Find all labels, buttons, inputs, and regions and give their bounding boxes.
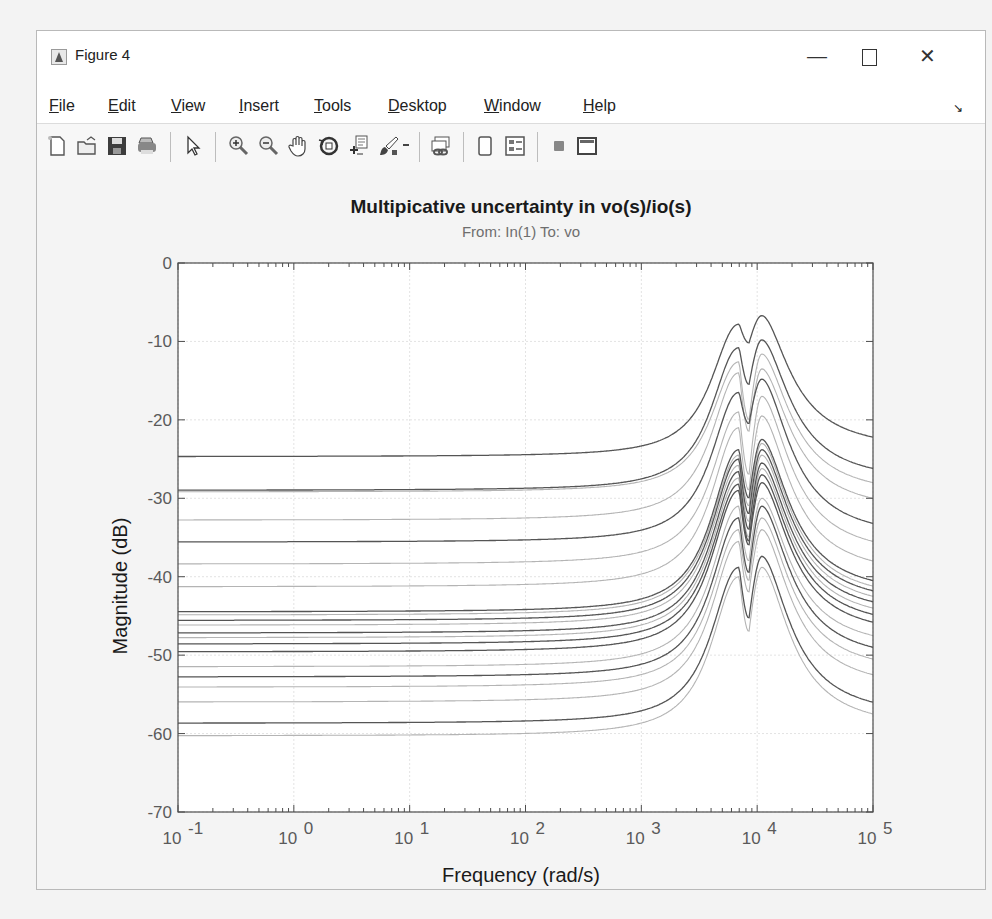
plot-subtitle: From: In(1) To: vo bbox=[462, 223, 580, 240]
minimize-button[interactable]: — bbox=[797, 41, 837, 71]
menu-label: ile bbox=[59, 97, 75, 114]
insert-colorbar-icon[interactable] bbox=[547, 134, 571, 158]
save-icon[interactable] bbox=[105, 134, 129, 158]
menu-window[interactable]: Window bbox=[484, 97, 541, 115]
x-tick-label: 10 bbox=[858, 829, 877, 848]
menu-label: dit bbox=[119, 97, 136, 114]
x-axis-label: Frequency (rad/s) bbox=[442, 864, 600, 886]
y-axis-label: Magnitude (dB) bbox=[109, 518, 131, 655]
brush-dropdown-icon[interactable] bbox=[401, 134, 411, 158]
toolbar-separator bbox=[170, 132, 171, 162]
maximize-icon bbox=[862, 49, 877, 66]
show-plot-tools-icon[interactable] bbox=[503, 134, 527, 158]
window-title: Figure 4 bbox=[75, 46, 130, 63]
rotate-3d-icon[interactable] bbox=[317, 134, 341, 158]
figure-toolbar bbox=[37, 123, 985, 171]
menu-insert[interactable]: Insert bbox=[239, 97, 279, 115]
menu-view[interactable]: View bbox=[171, 97, 205, 115]
y-tick-label: -60 bbox=[147, 725, 172, 744]
y-tick-label: -20 bbox=[147, 411, 172, 430]
toolbar-separator bbox=[419, 132, 420, 162]
dock-figure-icon[interactable]: ↘ bbox=[953, 101, 963, 115]
menu-tools[interactable]: Tools bbox=[314, 97, 351, 115]
figure-window: Figure 4 — ✕ File Edit View Insert Tools… bbox=[36, 30, 986, 890]
edit-plot-arrow-icon[interactable] bbox=[181, 134, 205, 158]
menu-help[interactable]: Help bbox=[583, 97, 616, 115]
print-icon[interactable] bbox=[135, 134, 159, 158]
menu-desktop[interactable]: Desktop bbox=[388, 97, 447, 115]
x-tick-exponent: 1 bbox=[420, 819, 429, 838]
y-tick-label: -50 bbox=[147, 646, 172, 665]
menu-label: ools bbox=[322, 97, 351, 114]
maximize-button[interactable] bbox=[849, 41, 889, 71]
menu-label: indow bbox=[499, 97, 541, 114]
toolbar-separator bbox=[537, 132, 538, 162]
x-tick-label: 10 bbox=[394, 829, 413, 848]
y-tick-label: -10 bbox=[147, 332, 172, 351]
menu-accel: V bbox=[171, 97, 181, 114]
menu-label: nsert bbox=[243, 97, 279, 114]
insert-legend-icon[interactable] bbox=[575, 134, 599, 158]
zoom-out-icon[interactable] bbox=[257, 134, 281, 158]
open-file-icon[interactable] bbox=[75, 134, 99, 158]
menu-accel: D bbox=[388, 97, 400, 114]
data-cursor-icon[interactable] bbox=[347, 134, 371, 158]
plot-title: Multipicative uncertainty in vo(s)/io(s) bbox=[351, 196, 692, 217]
hide-plot-tools-icon[interactable] bbox=[473, 134, 497, 158]
y-tick-label: -70 bbox=[147, 803, 172, 822]
plot-area: 10-11001011021031041050-10-20-30-40-50-6… bbox=[147, 254, 892, 848]
toolbar-separator bbox=[463, 132, 464, 162]
menu-label: elp bbox=[595, 97, 616, 114]
x-tick-label: 10 bbox=[510, 829, 529, 848]
x-tick-exponent: 4 bbox=[767, 819, 776, 838]
x-tick-exponent: 5 bbox=[883, 819, 892, 838]
menu-accel: E bbox=[108, 97, 119, 114]
zoom-in-icon[interactable] bbox=[227, 134, 251, 158]
x-tick-exponent: 0 bbox=[304, 819, 313, 838]
close-button[interactable]: ✕ bbox=[907, 41, 947, 71]
menu-accel: H bbox=[583, 97, 595, 114]
matlab-figure-icon bbox=[51, 49, 67, 65]
menu-accel: T bbox=[314, 97, 322, 114]
link-plot-icon[interactable] bbox=[429, 134, 453, 158]
x-tick-exponent: 3 bbox=[651, 819, 660, 838]
menu-accel: F bbox=[49, 97, 59, 114]
new-figure-icon[interactable] bbox=[45, 134, 69, 158]
menu-bar: File Edit View Insert Tools Desktop Wind… bbox=[37, 89, 985, 123]
y-tick-label: -40 bbox=[147, 568, 172, 587]
menu-label: esktop bbox=[400, 97, 447, 114]
pan-hand-icon[interactable] bbox=[287, 134, 311, 158]
x-tick-label: 10 bbox=[742, 829, 761, 848]
y-tick-label: 0 bbox=[163, 254, 172, 273]
y-tick-label: -30 bbox=[147, 489, 172, 508]
menu-file[interactable]: File bbox=[49, 97, 75, 115]
x-tick-label: 10 bbox=[278, 829, 297, 848]
x-tick-exponent: 2 bbox=[536, 819, 545, 838]
x-tick-label: 10 bbox=[626, 829, 645, 848]
bode-magnitude-plot[interactable]: Multipicative uncertainty in vo(s)/io(s)… bbox=[37, 170, 985, 890]
toolbar-separator bbox=[215, 132, 216, 162]
menu-edit[interactable]: Edit bbox=[108, 97, 136, 115]
menu-accel: W bbox=[484, 97, 499, 114]
figure-canvas: Multipicative uncertainty in vo(s)/io(s)… bbox=[37, 170, 985, 889]
title-bar[interactable]: Figure 4 — ✕ bbox=[37, 31, 985, 89]
brush-icon[interactable] bbox=[377, 134, 401, 158]
x-tick-label: 10 bbox=[163, 829, 182, 848]
x-tick-exponent: -1 bbox=[188, 819, 203, 838]
menu-label: iew bbox=[181, 97, 205, 114]
